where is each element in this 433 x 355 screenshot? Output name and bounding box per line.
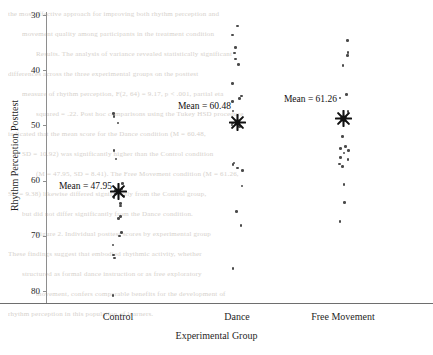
data-point xyxy=(241,169,244,172)
y-tick-label: 50 xyxy=(0,120,40,130)
data-point xyxy=(231,82,234,85)
data-point xyxy=(112,294,115,297)
data-point xyxy=(343,201,346,204)
mean-label-control: Mean = 47.95 xyxy=(44,181,112,192)
data-point xyxy=(233,52,236,55)
data-point xyxy=(346,54,349,57)
x-axis-line xyxy=(0,303,433,304)
background-text-line: Figure 2. Individual posttest scores by … xyxy=(36,230,211,238)
data-point xyxy=(240,224,243,227)
data-point xyxy=(232,267,235,270)
y-tick-label: 40 xyxy=(0,65,40,75)
background-text-line: These findings suggest that embodied rhy… xyxy=(8,250,202,258)
mean-marker-dance xyxy=(229,114,246,131)
mean-label-free-movement: Mean = 61.26 xyxy=(269,94,337,105)
y-axis-title: Rhythm Perception Posttest xyxy=(9,56,20,256)
data-point xyxy=(113,115,116,118)
data-point xyxy=(232,163,235,166)
data-point xyxy=(231,100,234,103)
data-point xyxy=(237,63,240,66)
data-point xyxy=(120,231,123,234)
y-tick-label: 80 xyxy=(0,286,40,296)
data-point xyxy=(117,217,120,220)
y-tick-mark xyxy=(43,15,47,16)
data-point xyxy=(341,135,344,138)
data-point xyxy=(117,122,120,125)
data-point xyxy=(231,34,234,37)
background-text-line: (M = 47.95, SD = 8.41). The Free Movemen… xyxy=(36,170,239,178)
data-point xyxy=(234,58,237,61)
x-tick-label-free-movement: Free Movement xyxy=(283,311,403,323)
data-point xyxy=(234,46,237,49)
data-point xyxy=(118,235,121,238)
data-point xyxy=(343,183,346,186)
data-point xyxy=(236,25,239,28)
data-point xyxy=(346,39,349,42)
data-point xyxy=(339,147,342,150)
mean-label-dance: Mean = 60.48 xyxy=(163,101,231,112)
background-text-line: measure of rhythm perception, F(2, 64) =… xyxy=(22,90,224,98)
background-text-line: SD = 10.92) was significantly higher tha… xyxy=(22,150,214,158)
data-point xyxy=(339,156,342,159)
data-point xyxy=(113,149,116,152)
data-point xyxy=(344,145,347,148)
background-text-line: indicated that the mean score for the Da… xyxy=(8,130,206,138)
background-text-line: movement quality among participants in t… xyxy=(22,30,214,38)
data-point xyxy=(112,112,115,115)
x-tick-label-control: Control xyxy=(58,311,178,323)
y-tick-label: 30 xyxy=(0,10,40,20)
x-tick-label-dance: Dance xyxy=(177,311,297,323)
background-text-line: movement, confers comparable benefits fo… xyxy=(36,290,226,298)
data-point xyxy=(345,93,348,96)
data-point xyxy=(341,165,344,168)
data-point xyxy=(241,185,244,188)
chart-figure: the most effective approach for improvin… xyxy=(0,0,433,355)
mean-marker-free-movement xyxy=(335,110,352,127)
data-point xyxy=(342,64,345,67)
y-tick-mark xyxy=(43,70,47,71)
background-text-line: Results. The analysis of variance reveal… xyxy=(36,50,232,58)
data-point xyxy=(339,220,342,223)
data-point xyxy=(115,158,118,161)
y-tick-label: 70 xyxy=(0,230,40,240)
mean-marker-control xyxy=(110,183,127,200)
data-point xyxy=(112,244,115,247)
data-point xyxy=(347,149,350,152)
data-point xyxy=(236,167,239,170)
data-point xyxy=(113,257,116,260)
y-axis-line xyxy=(46,12,47,303)
background-text-line: but did not differ significantly from th… xyxy=(22,210,193,218)
background-text-line: structured as formal dance instruction o… xyxy=(22,270,202,278)
y-tick-label: 60 xyxy=(0,175,40,185)
data-point xyxy=(339,97,342,100)
y-tick-mark xyxy=(43,236,47,237)
data-point xyxy=(119,205,122,208)
data-point xyxy=(235,210,238,213)
y-tick-mark xyxy=(43,125,47,126)
data-point xyxy=(238,97,241,100)
data-point xyxy=(343,152,346,155)
y-tick-mark xyxy=(43,291,47,292)
data-point xyxy=(232,110,235,113)
x-axis-title: Experimental Group xyxy=(0,330,433,341)
data-point xyxy=(347,158,350,161)
